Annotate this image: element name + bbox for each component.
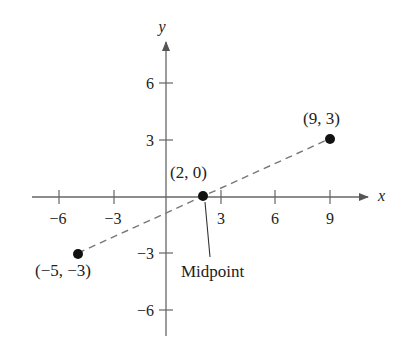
x-tick-label: 3 [217, 210, 225, 227]
point-midpoint [198, 191, 208, 201]
point-neg5-neg3 [73, 249, 83, 259]
y-tick-label: −6 [137, 302, 154, 319]
x-tick-label: −6 [49, 210, 66, 227]
y-tick-label: 3 [146, 132, 154, 149]
midpoint-leader-line [205, 202, 210, 257]
x-tick-label: 9 [326, 210, 334, 227]
x-axis-label: x [377, 187, 385, 204]
point-label: (−5, −3) [35, 261, 91, 280]
point-9-3 [325, 134, 335, 144]
y-tick-label: −3 [137, 245, 154, 262]
y-axis-label: y [156, 18, 166, 36]
midpoint-label: Midpoint [181, 262, 245, 281]
point-label: (2, 0) [170, 163, 207, 182]
y-tick-label: 6 [146, 75, 154, 92]
coordinate-plane: −6 −3 3 6 9 6 3 −3 −6 x y (−5, −3) (2, 0… [0, 0, 403, 360]
point-label: (9, 3) [303, 109, 340, 128]
x-tick-label: 6 [271, 210, 279, 227]
x-tick-label: −3 [104, 210, 121, 227]
